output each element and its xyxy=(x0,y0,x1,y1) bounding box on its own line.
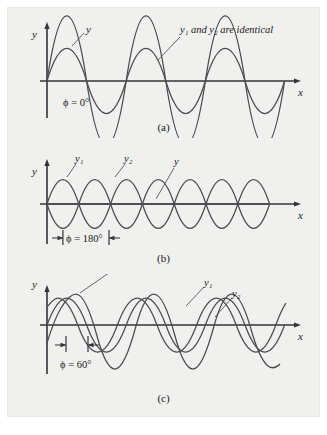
identical-annotation-leader-line xyxy=(158,37,180,60)
panel-a-resultant-label: y xyxy=(85,23,91,35)
y-axis-arrowhead xyxy=(44,159,49,166)
panel-b-resultant-label: y xyxy=(173,156,179,167)
y-axis-arrowhead xyxy=(44,285,49,292)
panel-a: y x y y₁ and y₂ are identical ϕ = 0° (a) xyxy=(8,8,319,138)
panel-c-plot: y x y y₁ y₂ ϕ = 60° xyxy=(8,274,319,404)
panel-a-x-axis-label: x xyxy=(297,86,303,98)
y2-leader-line xyxy=(115,164,125,177)
x-axis-arrowhead xyxy=(294,201,301,206)
x-axis-arrowhead xyxy=(294,322,301,327)
y-axis-arrowhead xyxy=(44,22,49,29)
panel-b-y-axis-label: y xyxy=(31,165,37,177)
panel-a-y-axis-label: y xyxy=(31,28,37,40)
panel-c-y-axis-label: y xyxy=(31,278,37,290)
panel-c-wave1-label: y₁ xyxy=(203,277,212,288)
x-axis-arrowhead xyxy=(294,78,301,83)
panel-c-wave2-label: y₂ xyxy=(231,288,241,299)
panel-b-caption: (b) xyxy=(8,252,319,264)
y1-leader-line xyxy=(67,164,76,177)
figure-container: y x y y₁ and y₂ are identical ϕ = 0° (a) xyxy=(8,8,319,416)
panel-c: y x y y₁ y₂ ϕ = 60° (c) xyxy=(8,274,319,404)
panel-b-wave1-label: y₁ xyxy=(74,153,83,164)
resultant-leader-line xyxy=(80,274,116,293)
panel-b-wave2-label: y₂ xyxy=(123,153,133,164)
panel-b-x-axis-label: x xyxy=(297,209,303,221)
panel-b-plot: y x y₁ y₂ y ϕ = 180° xyxy=(8,144,319,264)
y1-leader-line xyxy=(186,287,204,306)
panel-c-caption: (c) xyxy=(8,392,319,404)
panel-b: y x y₁ y₂ y ϕ = 180° (b) xyxy=(8,144,319,264)
panel-c-x-axis-label: x xyxy=(297,330,303,342)
panel-a-caption: (a) xyxy=(8,121,319,133)
panel-c-phase-label: ϕ = 60° xyxy=(60,359,91,370)
panel-b-phase-label: ϕ = 180° xyxy=(66,233,103,244)
panel-a-plot: y x y y₁ and y₂ are identical ϕ = 0° xyxy=(8,8,319,138)
panel-a-phase-label: ϕ = 0° xyxy=(63,97,89,108)
panel-a-identical-annotation: y₁ and y₂ are identical xyxy=(179,24,273,35)
wave-resultant-curve xyxy=(47,294,280,369)
